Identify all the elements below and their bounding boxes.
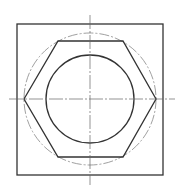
technical-drawing — [0, 0, 186, 193]
